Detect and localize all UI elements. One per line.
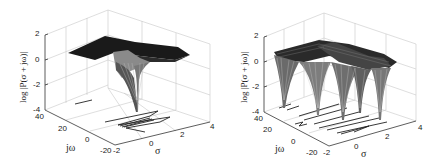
z-axis-label: log |P(σ + jω)| (19, 52, 28, 103)
surface-plot-right: 2 0 -2 -4 40 20 0 -20 -2 0 2 4 log |P(σ … (219, 0, 438, 165)
x-tick-0: 0 (149, 140, 153, 148)
y-tick-0: 0 (291, 138, 295, 146)
floor-contours (279, 104, 387, 134)
x-tick-2: 2 (385, 133, 389, 141)
x-tick-4: 4 (418, 124, 422, 132)
x-axis-label: σ (155, 146, 160, 156)
x-axis-label: σ (361, 149, 366, 159)
z-tick-0: 0 (35, 56, 39, 64)
z-axis-label: log |P(σ + jω)| (240, 52, 249, 103)
x-tick-0: 0 (354, 143, 358, 151)
y-axis-label: jω (66, 143, 75, 153)
z-tick-neg2: -2 (252, 83, 259, 91)
y-tick-0: 0 (85, 136, 89, 144)
y-axis-label: jω (275, 144, 284, 154)
y-tick-20: 20 (263, 126, 272, 134)
y-tick-20: 20 (58, 125, 67, 133)
surface-mesh (68, 36, 190, 112)
x-tick-neg2: -2 (113, 147, 120, 155)
z-tick-0: 0 (254, 58, 258, 66)
y-tick-neg20: -20 (100, 147, 112, 155)
z-tick-2: 2 (254, 32, 258, 40)
y-tick-40: 40 (35, 113, 44, 121)
z-tick-neg2: -2 (33, 81, 40, 89)
x-tick-2: 2 (180, 131, 184, 139)
x-tick-neg2: -2 (323, 149, 330, 157)
y-tick-neg20: -20 (306, 149, 318, 157)
surface-plot-left: 2 0 -2 -4 40 20 0 -20 -2 0 2 4 log |P(σ … (0, 0, 219, 165)
x-tick-4: 4 (210, 123, 214, 131)
y-tick-40: 40 (254, 115, 263, 123)
z-tick-2: 2 (35, 30, 39, 38)
